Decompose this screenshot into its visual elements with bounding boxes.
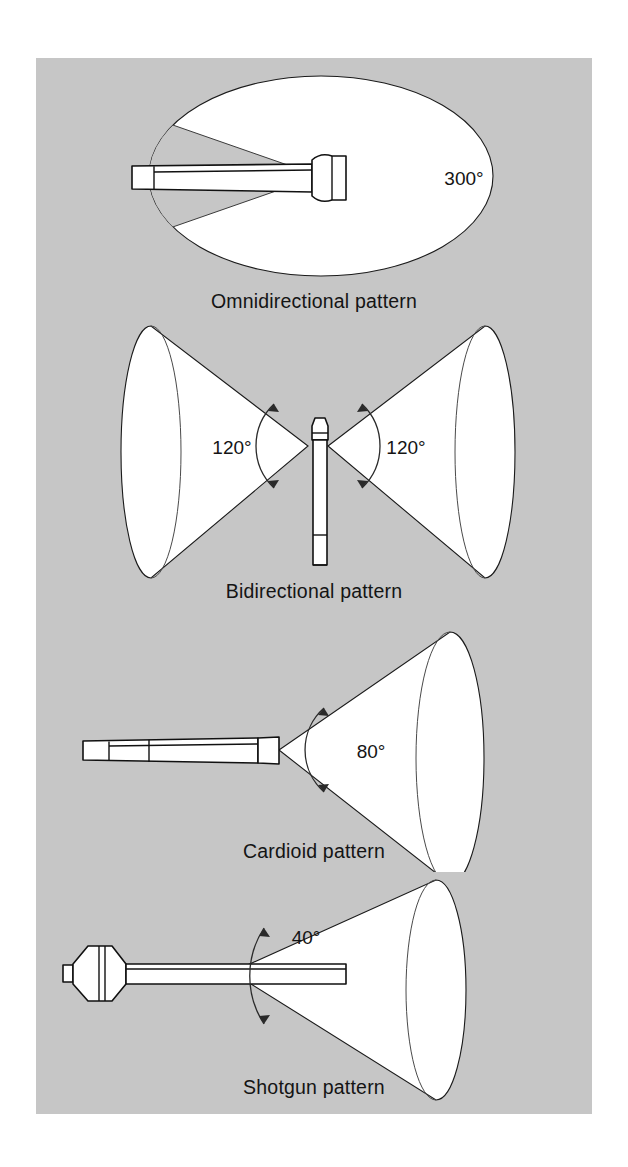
figure-root: 300° Omnidirectional pattern <box>0 0 628 1167</box>
bidi-microphone <box>312 418 328 565</box>
bidirectional-diagram: 120° 120° Bidirectional pattern <box>36 320 592 610</box>
cardioid-caption: Cardioid pattern <box>243 840 385 862</box>
bidi-left-angle-label: 120° <box>212 437 251 458</box>
bidirectional-caption: Bidirectional pattern <box>226 580 403 602</box>
cardioid-diagram: 80° Cardioid pattern <box>36 610 592 872</box>
figure-panel: 300° Omnidirectional pattern <box>36 58 592 1114</box>
omnidirectional-diagram: 300° Omnidirectional pattern <box>36 58 592 320</box>
shotgun-caption: Shotgun pattern <box>243 1076 385 1098</box>
shotgun-diagram: 40° Shotgun pattern <box>36 872 592 1114</box>
cardioid-microphone <box>83 737 279 764</box>
omni-angle-label: 300° <box>444 168 483 189</box>
bidi-right-angle-label: 120° <box>386 437 425 458</box>
shotgun-angle-label: 40° <box>292 927 321 948</box>
cardioid-angle-label: 80° <box>357 741 386 762</box>
omnidirectional-caption: Omnidirectional pattern <box>211 290 417 312</box>
shotgun-lobe <box>232 880 466 1100</box>
